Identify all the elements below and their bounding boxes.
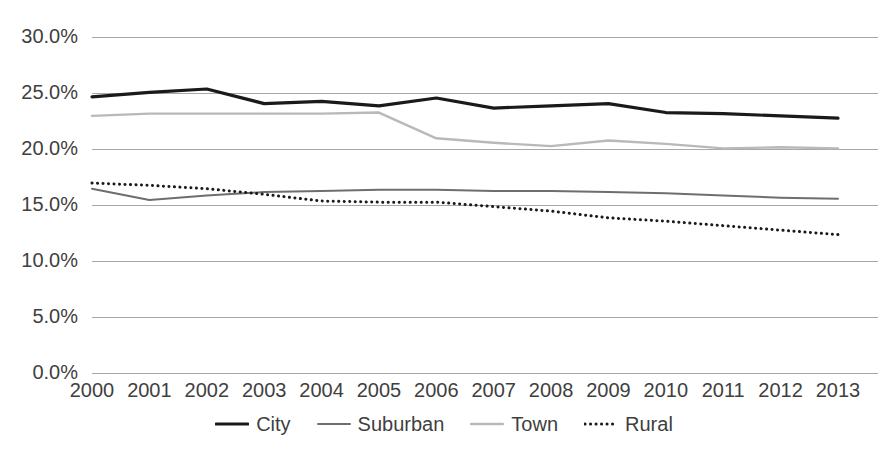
x-axis-label: 2001 bbox=[120, 379, 178, 402]
x-axis-label: 2000 bbox=[63, 379, 121, 402]
x-axis-label: 2003 bbox=[235, 379, 293, 402]
x-axis-label: 2008 bbox=[522, 379, 580, 402]
legend-item-city[interactable]: City bbox=[215, 413, 290, 436]
x-axis-label: 2005 bbox=[350, 379, 408, 402]
x-axis-label: 2006 bbox=[407, 379, 465, 402]
y-axis-label: 5.0% bbox=[0, 305, 78, 328]
y-axis-label: 10.0% bbox=[0, 249, 78, 272]
y-axis-label: 15.0% bbox=[0, 193, 78, 216]
legend-item-town[interactable]: Town bbox=[470, 413, 558, 436]
legend-swatch-town-icon bbox=[470, 417, 504, 431]
x-axis-label: 2004 bbox=[293, 379, 351, 402]
chart-legend: CitySuburbanTownRural bbox=[0, 404, 888, 444]
legend-label: City bbox=[256, 413, 290, 436]
x-axis-label: 2007 bbox=[465, 379, 523, 402]
y-axis-label: 30.0% bbox=[0, 25, 78, 48]
legend-label: Suburban bbox=[358, 413, 445, 436]
y-axis-label: 25.0% bbox=[0, 81, 78, 104]
x-axis-label: 2013 bbox=[809, 379, 867, 402]
legend-swatch-city-icon bbox=[215, 417, 249, 431]
legend-item-suburban[interactable]: Suburban bbox=[317, 413, 445, 436]
y-axis-label: 20.0% bbox=[0, 137, 78, 160]
series-line-town bbox=[92, 113, 838, 149]
x-axis-label: 2002 bbox=[178, 379, 236, 402]
x-axis-label: 2009 bbox=[579, 379, 637, 402]
legend-label: Town bbox=[511, 413, 558, 436]
legend-swatch-rural-icon bbox=[584, 417, 618, 431]
legend-label: Rural bbox=[625, 413, 673, 436]
legend-item-rural[interactable]: Rural bbox=[584, 413, 673, 436]
series-line-suburban bbox=[92, 189, 838, 200]
x-axis-label: 2011 bbox=[694, 379, 752, 402]
line-chart: 0.0%5.0%10.0%15.0%20.0%25.0%30.0% 200020… bbox=[0, 0, 888, 455]
x-axis-label: 2010 bbox=[637, 379, 695, 402]
legend-swatch-suburban-icon bbox=[317, 417, 351, 431]
x-axis-label: 2012 bbox=[752, 379, 810, 402]
